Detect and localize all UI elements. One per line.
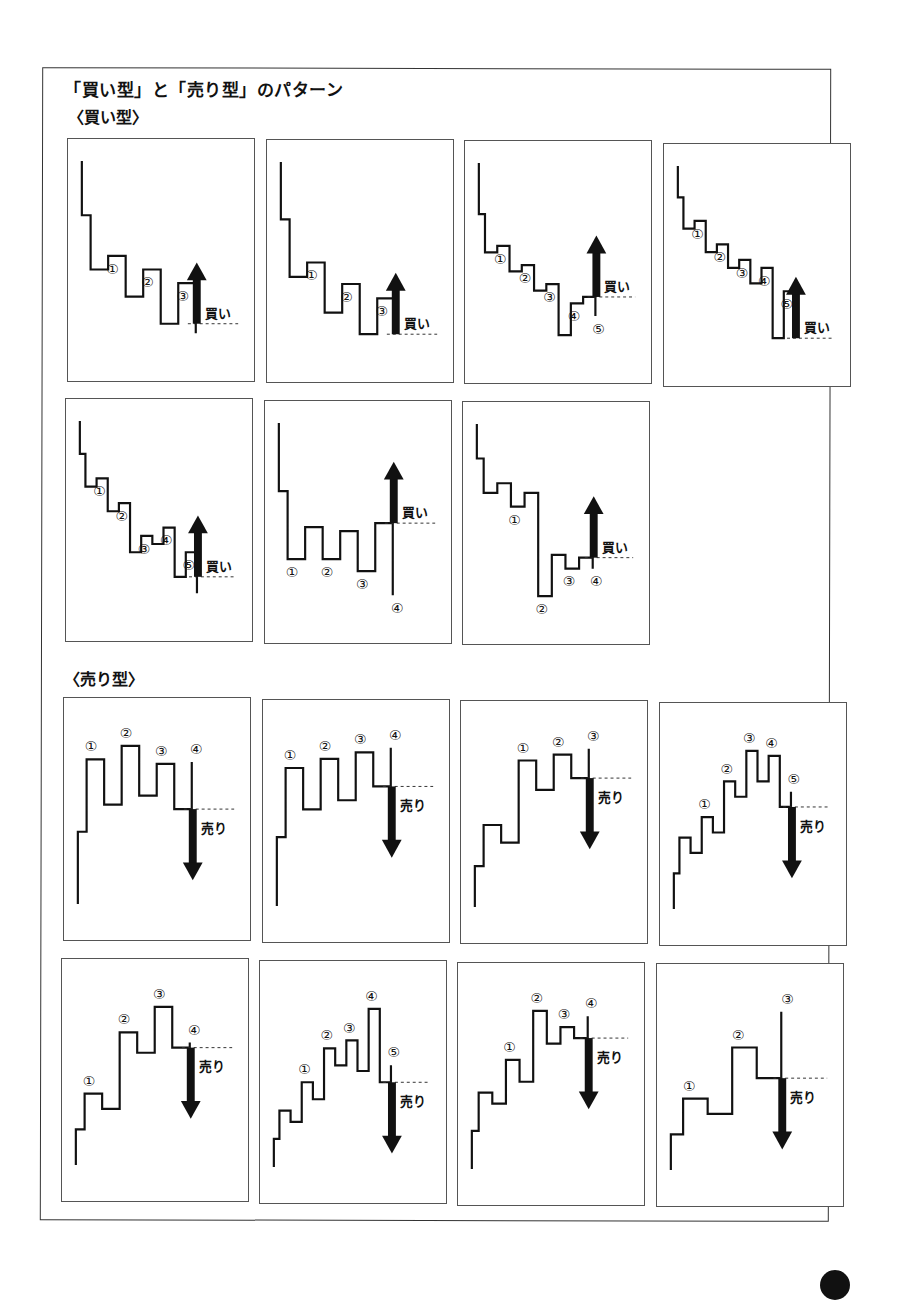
- step-chart: 売り①②③④: [62, 959, 248, 1201]
- point-number-label: ②: [321, 1027, 333, 1043]
- price-step-line: [82, 161, 196, 333]
- sell-signal-label: 売り: [199, 1059, 225, 1074]
- point-number-label: ②: [713, 249, 725, 265]
- buy-pattern-panel: 買い①②③④⑤: [464, 140, 652, 384]
- point-number-label: ①: [508, 512, 520, 528]
- point-number-label: ①: [286, 564, 298, 580]
- sell-arrow-down-icon: [772, 1078, 792, 1149]
- buy-pattern-panel: 買い①②③④⑤: [663, 143, 851, 387]
- sell-arrow-down-icon: [782, 807, 802, 878]
- step-chart: 売り①②③④: [263, 700, 449, 942]
- step-chart: 買い①②③: [68, 139, 254, 381]
- price-step-line: [277, 748, 391, 906]
- step-chart: 売り①②③④⑤: [260, 961, 446, 1203]
- point-number-label: ③: [587, 728, 599, 744]
- sell-signal-label: 売り: [400, 798, 426, 813]
- point-number-label: ③: [356, 576, 368, 592]
- point-number-label: ②: [721, 761, 733, 777]
- sell-arrow-down-icon: [382, 786, 402, 857]
- point-number-label: ⑤: [788, 771, 800, 787]
- step-chart: 買い①②③④⑤: [664, 144, 850, 386]
- buy-pattern-panel: 買い①②③④⑤: [65, 398, 253, 642]
- point-number-label: ①: [683, 1078, 695, 1094]
- point-number-label: ⑤: [182, 557, 194, 573]
- sell-arrow-down-icon: [580, 778, 600, 849]
- point-number-label: ③: [781, 991, 793, 1007]
- point-number-label: ④: [391, 600, 403, 616]
- buy-signal-label: 買い: [205, 306, 231, 321]
- point-number-label: ④: [389, 727, 401, 743]
- section-label-buy: 〈買い型〉: [68, 104, 148, 128]
- step-chart: 売り①②③: [657, 964, 843, 1206]
- sell-arrow-down-icon: [181, 1048, 201, 1119]
- sell-pattern-panel: 売り①②③④: [457, 962, 645, 1206]
- point-number-label: ③: [743, 730, 755, 746]
- point-number-label: ②: [321, 564, 333, 580]
- point-number-label: ①: [83, 1073, 95, 1089]
- point-number-label: ②: [535, 601, 547, 617]
- point-number-label: ④: [765, 735, 777, 751]
- point-number-label: ②: [732, 1027, 744, 1043]
- point-number-label: ③: [543, 289, 555, 305]
- point-number-label: ①: [691, 226, 703, 242]
- sell-pattern-panel: 売り①②③④: [63, 697, 251, 941]
- buy-signal-label: 買い: [206, 559, 232, 574]
- step-chart: 売り①②③④: [458, 963, 644, 1205]
- sell-pattern-panel: 売り①②③: [460, 700, 648, 944]
- buy-arrow-up-icon: [386, 273, 406, 334]
- buy-signal-label: 買い: [602, 540, 628, 555]
- point-number-label: ④: [190, 741, 202, 757]
- buy-pattern-panel: 買い①②③④: [462, 401, 650, 645]
- point-number-label: ①: [698, 796, 710, 812]
- sell-pattern-panel: 売り①②③: [656, 963, 844, 1207]
- sell-signal-label: 売り: [201, 821, 227, 836]
- point-number-label: ④: [568, 308, 580, 324]
- sell-signal-label: 売り: [598, 790, 624, 805]
- point-number-label: ④: [590, 573, 602, 589]
- price-step-line: [477, 424, 593, 596]
- point-number-label: ②: [115, 508, 127, 524]
- buy-pattern-panel: 買い①②③: [266, 139, 454, 383]
- point-number-label: ③: [153, 986, 165, 1002]
- sell-pattern-panel: 売り①②③④⑤: [659, 702, 847, 946]
- point-number-label: ③: [375, 303, 387, 319]
- price-step-line: [80, 421, 197, 593]
- point-number-label: ②: [118, 1011, 130, 1027]
- point-number-label: ③: [563, 573, 575, 589]
- price-step-line: [78, 746, 192, 904]
- point-number-label: ②: [519, 270, 531, 286]
- buy-signal-label: 買い: [604, 279, 630, 294]
- point-number-label: ③: [343, 1020, 355, 1036]
- point-number-label: ④: [585, 995, 597, 1011]
- sell-arrow-down-icon: [382, 1082, 402, 1153]
- sell-pattern-panel: 売り①②③④: [262, 699, 450, 943]
- sell-pattern-panel: 売り①②③④⑤: [259, 960, 447, 1204]
- point-number-label: ①: [85, 738, 97, 754]
- step-chart: 買い①②③④⑤: [66, 399, 252, 641]
- point-number-label: ④: [365, 988, 377, 1004]
- point-number-label: ①: [503, 1039, 515, 1055]
- point-number-label: ④: [188, 1022, 200, 1038]
- buy-pattern-panel: 買い①②③④: [264, 400, 452, 644]
- point-number-label: ④: [758, 273, 770, 289]
- point-number-label: ①: [93, 483, 105, 499]
- point-number-label: ④: [160, 532, 172, 548]
- point-number-label: ③: [176, 288, 188, 304]
- sell-pattern-panel: 売り①②③④: [61, 958, 249, 1202]
- point-number-label: ⑤: [388, 1044, 400, 1060]
- sell-arrow-down-icon: [183, 809, 203, 880]
- sell-signal-label: 売り: [400, 1094, 426, 1109]
- price-step-line: [475, 749, 589, 907]
- section-label-sell: 〈売り型〉: [64, 666, 144, 690]
- buy-arrow-up-icon: [586, 236, 606, 297]
- buy-pattern-panel: 買い①②③: [67, 138, 255, 382]
- point-number-label: ③: [558, 1006, 570, 1022]
- step-chart: 売り①②③: [461, 701, 647, 943]
- point-number-label: ①: [305, 267, 317, 283]
- point-number-label: ②: [120, 725, 132, 741]
- point-number-label: ①: [106, 261, 118, 277]
- sell-signal-label: 売り: [800, 819, 826, 834]
- step-chart: 買い①②③④⑤: [465, 141, 651, 383]
- point-number-label: ②: [530, 990, 542, 1006]
- point-number-label: ①: [284, 747, 296, 763]
